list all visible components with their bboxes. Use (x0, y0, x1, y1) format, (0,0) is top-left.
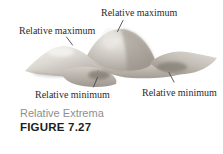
figure-number: FIGURE 7.27 (20, 121, 91, 134)
label-relative-maximum-left: Relative maximum (19, 25, 95, 36)
figure-caption: Relative Extrema (20, 107, 104, 119)
surface-body (25, 29, 217, 87)
surface-right-minimum-crease (157, 62, 187, 72)
surface-left-minimum-crease (88, 71, 110, 80)
surface-central-hump-highlight (102, 29, 118, 49)
figure-7-27: Relative maximum Relative maximum Relati… (0, 0, 223, 154)
leader-line-left-maximum (67, 37, 73, 45)
label-relative-minimum-left: Relative minimum (35, 89, 110, 100)
label-relative-minimum-right: Relative minimum (142, 87, 217, 98)
surface-left-wing-highlight (48, 47, 74, 57)
label-relative-maximum-top: Relative maximum (101, 7, 177, 18)
